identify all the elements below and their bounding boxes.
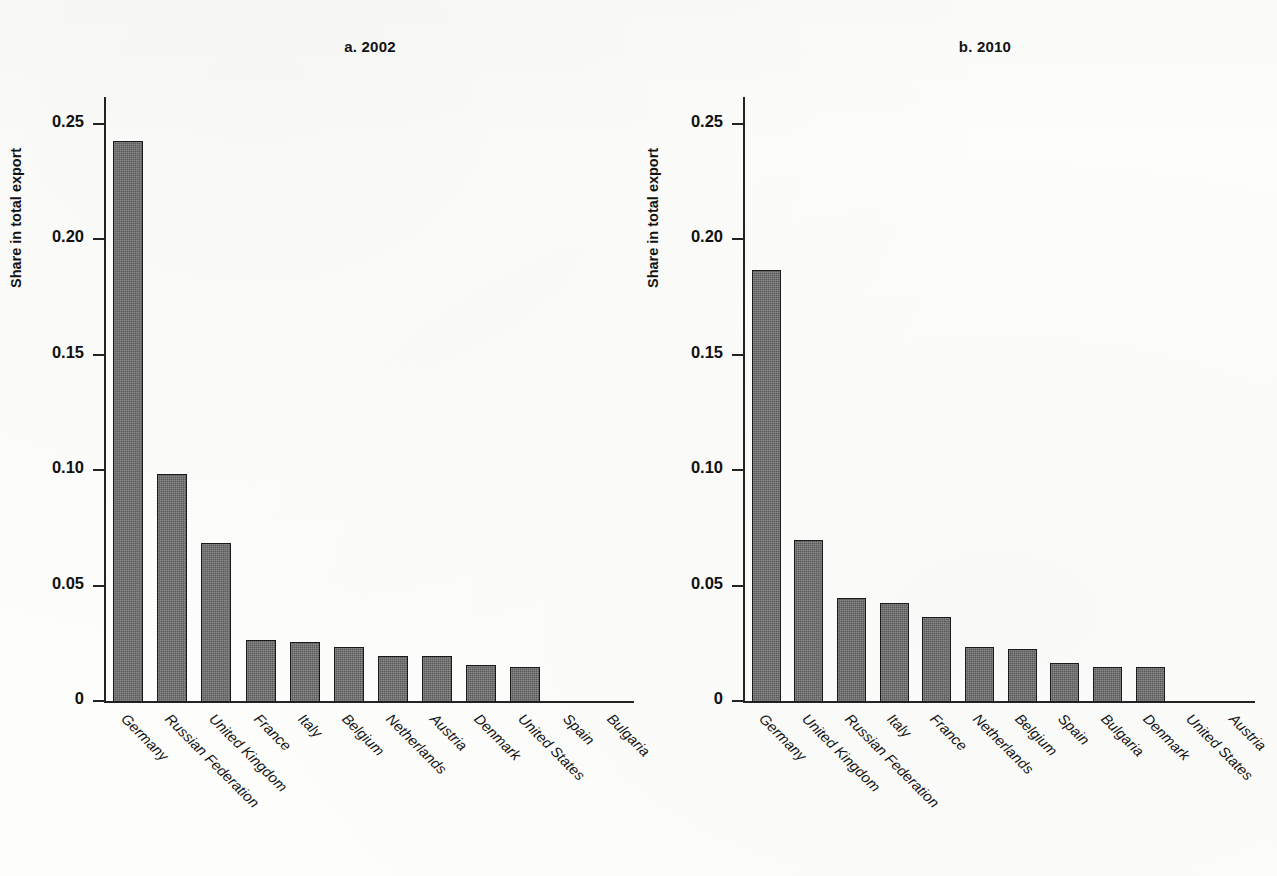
category-slot: Germany	[106, 704, 150, 874]
category-slot: France	[238, 704, 282, 874]
chart-panel-2002: a. 2002 Share in total export 00.050.100…	[0, 0, 660, 876]
bar-slot	[327, 102, 371, 702]
y-tick-0.10: 0.10	[732, 469, 743, 471]
bar-united-kingdom	[201, 543, 231, 702]
y-axis-title-right: Share in total export	[645, 28, 661, 288]
y-tick-label: 0.20	[52, 227, 84, 246]
y-tick-label: 0	[714, 689, 723, 708]
category-slot: Austria	[415, 704, 459, 874]
category-slot: Belgium	[1001, 704, 1044, 874]
bar-united-states	[510, 667, 540, 702]
category-slot: Italy	[283, 704, 327, 874]
bar-group-2010	[745, 102, 1257, 702]
bar-austria	[422, 656, 452, 702]
bar-belgium	[334, 647, 364, 702]
chart-panel-2010: b. 2010 Share in total export 00.050.100…	[633, 0, 1277, 876]
bar-slot	[283, 102, 327, 702]
category-slot: Spain	[548, 704, 592, 874]
category-slot: Belgium	[327, 704, 371, 874]
bar-denmark	[1136, 667, 1165, 702]
y-tick-label: 0.05	[691, 574, 723, 593]
x-axis-category-labels-right: GermanyUnited KingdomRussian FederationI…	[745, 704, 1257, 874]
bar-italy	[290, 642, 320, 702]
bar-germany	[752, 270, 781, 702]
bar-slot	[1172, 102, 1215, 702]
bar-slot	[548, 102, 592, 702]
category-slot: Germany	[745, 704, 788, 874]
y-tick-0.20: 0.20	[93, 238, 104, 240]
y-tick-label: 0.20	[691, 227, 723, 246]
bar-france	[246, 640, 276, 702]
y-tick-0: 0	[93, 700, 104, 702]
y-tick-label: 0.15	[691, 343, 723, 362]
bar-france	[922, 617, 951, 702]
category-slot: Bulgaria	[1086, 704, 1129, 874]
y-tick-label: 0.25	[52, 112, 84, 131]
y-tick-label: 0.10	[691, 458, 723, 477]
y-tick-0: 0	[732, 700, 743, 702]
bar-slot	[592, 102, 636, 702]
bar-slot	[106, 102, 150, 702]
bar-slot	[745, 102, 788, 702]
y-tick-label: 0.05	[52, 574, 84, 593]
category-label: Austria	[1226, 711, 1269, 754]
y-tick-0.10: 0.10	[93, 469, 104, 471]
y-tick-label: 0	[75, 689, 84, 708]
category-slot: United Kingdom	[194, 704, 238, 874]
bar-slot	[1214, 102, 1257, 702]
bar-slot	[1044, 102, 1087, 702]
x-axis-category-labels-left: GermanyRussian FederationUnited KingdomF…	[106, 704, 636, 874]
category-slot: Denmark	[459, 704, 503, 874]
y-tick-label: 0.10	[52, 458, 84, 477]
category-slot: Bulgaria	[592, 704, 636, 874]
category-slot: France	[916, 704, 959, 874]
y-tick-0.15: 0.15	[732, 354, 743, 356]
y-tick-0.05: 0.05	[732, 585, 743, 587]
bar-slot	[150, 102, 194, 702]
bar-slot	[371, 102, 415, 702]
category-slot: United Kingdom	[788, 704, 831, 874]
bar-slot	[1086, 102, 1129, 702]
y-tick-0.25: 0.25	[93, 123, 104, 125]
category-slot: Russian Federation	[150, 704, 194, 874]
y-tick-0.20: 0.20	[732, 238, 743, 240]
bar-netherlands	[378, 656, 408, 702]
bar-slot	[459, 102, 503, 702]
bar-denmark	[466, 665, 496, 702]
category-slot: United States	[1172, 704, 1215, 874]
y-tick-0.05: 0.05	[93, 585, 104, 587]
bar-netherlands	[965, 647, 994, 702]
category-slot: Italy	[873, 704, 916, 874]
category-label: Italy	[884, 711, 914, 741]
y-axis-title-left: Share in total export	[8, 28, 24, 288]
bar-slot	[958, 102, 1001, 702]
bar-germany	[113, 141, 143, 702]
bar-group-2002	[106, 102, 636, 702]
y-tick-label: 0.25	[691, 112, 723, 131]
category-slot: Netherlands	[958, 704, 1001, 874]
y-tick-label: 0.15	[52, 343, 84, 362]
y-tick-0.15: 0.15	[93, 354, 104, 356]
bar-slot	[503, 102, 547, 702]
plot-area-2010: 00.050.100.150.200.25 GermanyUnited King…	[743, 90, 1253, 706]
category-slot: United States	[503, 704, 547, 874]
y-tick-0.25: 0.25	[732, 123, 743, 125]
bar-slot	[830, 102, 873, 702]
plot-area-2002: 00.050.100.150.200.25 GermanyRussian Fed…	[104, 90, 634, 706]
bar-slot	[194, 102, 238, 702]
category-slot: Spain	[1044, 704, 1087, 874]
category-slot: Netherlands	[371, 704, 415, 874]
bar-russian-federation	[837, 598, 866, 702]
bar-belgium	[1008, 649, 1037, 702]
panel-title-2010: b. 2010	[633, 38, 1277, 55]
bar-slot	[1001, 102, 1044, 702]
bar-slot	[873, 102, 916, 702]
category-label: Italy	[295, 711, 325, 741]
bar-slot	[788, 102, 831, 702]
bar-united-kingdom	[794, 540, 823, 702]
bar-slot	[1129, 102, 1172, 702]
bar-bulgaria	[1093, 667, 1122, 702]
bar-italy	[880, 603, 909, 702]
bar-russian-federation	[157, 474, 187, 702]
bar-slot	[238, 102, 282, 702]
